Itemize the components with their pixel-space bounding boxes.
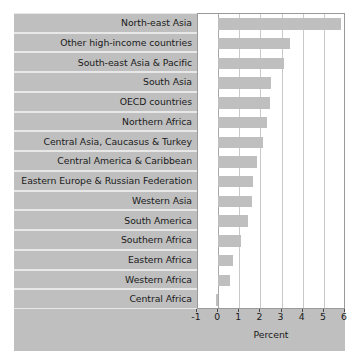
category-row: South America <box>14 210 197 230</box>
bar <box>218 77 271 88</box>
bar <box>218 235 241 246</box>
category-label: Northern Africa <box>122 117 192 126</box>
category-label: Central Asia, Caucasus & Turkey <box>43 137 192 146</box>
bar <box>218 38 290 49</box>
category-label: Southern Africa <box>121 235 192 244</box>
category-label: South America <box>124 216 192 225</box>
bar <box>218 58 284 69</box>
category-label: Central America & Caribbean <box>57 156 192 165</box>
bar <box>218 255 233 266</box>
category-label: OECD countries <box>120 97 192 106</box>
x-tick-label: 0 <box>214 312 220 321</box>
category-label: Eastern Europe & Russian Federation <box>21 176 192 185</box>
bar <box>216 294 218 305</box>
category-label: South Asia <box>143 77 192 86</box>
plot-area <box>197 13 345 309</box>
category-row: Central Asia, Caucasus & Turkey <box>14 131 197 151</box>
category-label: Western Africa <box>125 275 192 284</box>
x-tick-label: 2 <box>256 312 262 321</box>
x-axis: Percent -10123456 <box>197 309 345 351</box>
category-label: Central Africa <box>129 294 192 303</box>
bar <box>218 97 270 108</box>
category-row: Central Africa <box>14 289 197 309</box>
category-row: South-east Asia & Pacific <box>14 52 197 72</box>
category-row: Northern Africa <box>14 112 197 132</box>
x-tick-label: 5 <box>320 312 326 321</box>
x-tick-label: 4 <box>299 312 305 321</box>
x-axis-title: Percent <box>197 329 345 340</box>
chart-figure: North-east AsiaOther high-income countri… <box>0 0 357 364</box>
x-tick-label: 3 <box>278 312 284 321</box>
x-tick-label: 1 <box>235 312 241 321</box>
x-tick-label: -1 <box>191 312 200 321</box>
category-row: Eastern Europe & Russian Federation <box>14 171 197 191</box>
category-label: Other high-income countries <box>60 38 192 47</box>
bar <box>218 275 230 286</box>
category-label: Eastern Africa <box>128 255 192 264</box>
category-row: Western Africa <box>14 270 197 290</box>
x-tick-label: 6 <box>341 312 347 321</box>
category-row: Eastern Africa <box>14 250 197 270</box>
category-label-column: North-east AsiaOther high-income countri… <box>14 13 197 309</box>
gridline <box>303 14 304 308</box>
bar <box>218 117 267 128</box>
category-row: OECD countries <box>14 92 197 112</box>
category-row: Southern Africa <box>14 230 197 250</box>
bar <box>218 215 248 226</box>
category-label: North-east Asia <box>121 18 192 27</box>
category-row: Other high-income countries <box>14 33 197 53</box>
bar <box>218 196 252 207</box>
category-row: Central America & Caribbean <box>14 151 197 171</box>
bar <box>218 137 262 148</box>
category-label: Western Asia <box>132 196 192 205</box>
bar <box>218 176 253 187</box>
bar <box>218 18 341 29</box>
bar <box>218 156 257 167</box>
gridline <box>324 14 325 308</box>
category-row: Western Asia <box>14 191 197 211</box>
category-row: North-east Asia <box>14 13 197 33</box>
category-label: South-east Asia & Pacific <box>78 58 192 67</box>
category-row: South Asia <box>14 72 197 92</box>
chart-panel: North-east AsiaOther high-income countri… <box>14 13 345 351</box>
